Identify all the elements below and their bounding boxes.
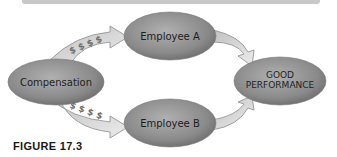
compensation-label: Compensation [8, 70, 104, 94]
good-performance-line2: PERFORMANCE [246, 81, 315, 91]
employee-a-label: Employee A [124, 24, 216, 48]
employee-b-label: Employee B [124, 111, 216, 135]
arrow-b-to-performance [212, 96, 254, 130]
good-performance-label: GOOD PERFORMANCE [234, 66, 326, 96]
arrow-comp-to-a: $ $ $ $ [50, 26, 128, 64]
arrow-a-to-performance [212, 30, 254, 66]
figure-caption: FIGURE 17.3 [13, 140, 82, 152]
